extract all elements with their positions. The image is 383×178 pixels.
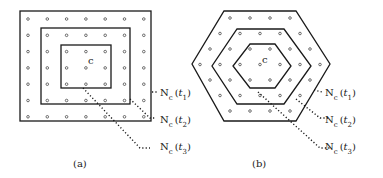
svg-text:Nc(t1): Nc(t1) — [325, 87, 356, 102]
svg-text:Nc(t3): Nc(t3) — [325, 141, 356, 156]
leader-nt1 — [314, 90, 322, 92]
svg-text:Nc(t3): Nc(t3) — [160, 141, 191, 156]
nc-t3-label-a: Nc(t3) — [160, 141, 191, 156]
hex-neighborhood-t1 — [233, 44, 291, 88]
panel-a-square-lattice: c Nc(t1) Nc(t2) Nc(t3) (a) — [20, 11, 191, 169]
leader-nt3 — [83, 88, 150, 148]
square-neighborhood-t2 — [41, 28, 130, 104]
leader-nt3 — [258, 92, 330, 148]
svg-text:Nc(t2): Nc(t2) — [325, 114, 356, 129]
center-cell-label: c — [262, 54, 268, 65]
panel-b-hex-lattice: c Nc(t1) Nc(t2) Nc(t3) (b) — [192, 11, 356, 169]
nc-t2-label-a: Nc(t2) — [160, 114, 191, 129]
nc-t3-label-b: Nc(t3) — [325, 141, 356, 156]
center-cell-label: c — [88, 55, 94, 66]
panel-b-caption: (b) — [252, 158, 266, 169]
lattice-nodes — [199, 17, 322, 113]
svg-text:Nc(t2): Nc(t2) — [160, 114, 191, 129]
panel-a-caption: (a) — [73, 158, 87, 169]
hex-neighborhood-t2 — [212, 29, 311, 104]
nc-t1-label-a: Nc(t1) — [160, 87, 191, 102]
nc-t1-label-b: Nc(t1) — [325, 87, 356, 102]
neighborhood-diagram: c Nc(t1) Nc(t2) Nc(t3) (a) c Nc(t1) Nc(t… — [0, 0, 383, 178]
nc-t2-label-b: Nc(t2) — [325, 114, 356, 129]
leader-nt2 — [296, 99, 328, 118]
lattice-nodes — [27, 18, 145, 118]
svg-text:Nc(t1): Nc(t1) — [160, 87, 191, 102]
